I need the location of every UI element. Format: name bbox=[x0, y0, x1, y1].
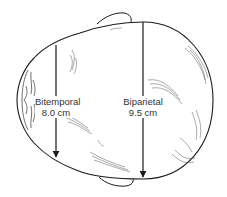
bitemporal-name: Bitemporal bbox=[35, 96, 77, 107]
bitemporal-value: 8.0 cm bbox=[35, 107, 77, 118]
biparietal-label: Biparietal 9.5 cm bbox=[122, 96, 164, 118]
bitemporal-label: Bitemporal 8.0 cm bbox=[35, 96, 77, 118]
biparietal-value: 9.5 cm bbox=[122, 107, 164, 118]
biparietal-name: Biparietal bbox=[122, 96, 164, 107]
